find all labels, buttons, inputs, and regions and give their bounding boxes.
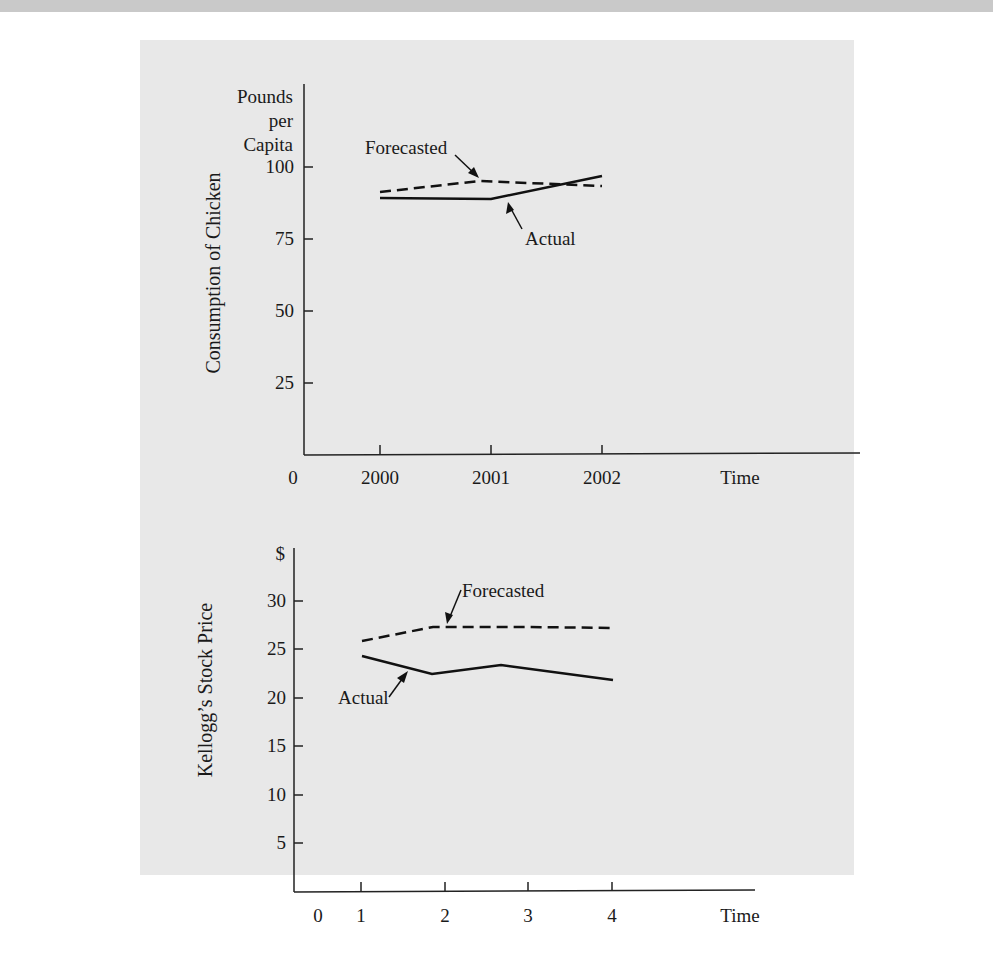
top-ytick-100: 100 (266, 156, 295, 177)
bottom-origin-zero: 0 (313, 905, 323, 926)
top-xtick-2000: 2000 (361, 467, 399, 488)
top-unit-per: per (269, 110, 294, 131)
bottom-forecast-line (362, 627, 613, 641)
bottom-x-axis (294, 890, 755, 892)
top-origin-zero: 0 (288, 467, 298, 488)
top-ytick-50: 50 (275, 300, 294, 321)
bottom-actual-annotation: Actual (338, 687, 389, 708)
kellogg-chart: $ Kellogg’s Stock Price 30 25 20 15 10 5… (194, 543, 760, 926)
top-xtick-2002: 2002 (583, 467, 621, 488)
top-unit-pounds: Pounds (237, 86, 293, 107)
bottom-xtick-1: 1 (356, 905, 366, 926)
bottom-x-axis-label: Time (720, 905, 759, 926)
top-y-axis-label: Consumption of Chicken (202, 172, 225, 373)
top-unit-capita: Capita (243, 134, 293, 155)
bottom-forecast-annotation: Forecasted (462, 580, 545, 601)
top-forecast-annotation: Forecasted (365, 137, 448, 158)
top-ytick-75: 75 (275, 228, 294, 249)
top-x-axis (304, 453, 860, 455)
bottom-ytick-5: 5 (277, 832, 287, 853)
bottom-xtick-4: 4 (607, 905, 617, 926)
bottom-y-axis-label: Kellogg’s Stock Price (194, 603, 217, 778)
bottom-ytick-10: 10 (267, 784, 286, 805)
top-actual-line (380, 176, 602, 199)
top-x-axis-label: Time (720, 467, 759, 488)
top-xtick-2001: 2001 (472, 467, 510, 488)
bottom-ytick-30: 30 (267, 590, 286, 611)
bottom-xtick-3: 3 (523, 905, 533, 926)
figure-svg: Pounds per Capita Consumption of Chicken… (0, 0, 993, 974)
chicken-chart: Pounds per Capita Consumption of Chicken… (202, 84, 860, 488)
bottom-ytick-15: 15 (267, 735, 286, 756)
bottom-xtick-2: 2 (440, 905, 450, 926)
top-actual-annotation: Actual (525, 228, 576, 249)
top-ytick-25: 25 (275, 372, 294, 393)
bottom-ytick-20: 20 (267, 687, 286, 708)
bottom-ytick-25: 25 (267, 638, 286, 659)
bottom-unit-dollar: $ (276, 543, 286, 564)
